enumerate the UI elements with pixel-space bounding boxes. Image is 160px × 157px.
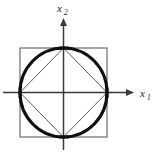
vertex-left	[19, 88, 22, 98]
x1-axis-label: x 1	[139, 87, 151, 102]
x2-axis-label-subscript: 2	[64, 8, 68, 17]
diagram-canvas: x 1 x 2	[0, 0, 160, 157]
x1-axis-label-base: x	[139, 87, 145, 99]
vertex-bottom	[59, 136, 69, 139]
vertex-right	[106, 88, 109, 98]
x1-axis-arrowhead	[126, 89, 134, 96]
x2-axis-label-base: x	[56, 2, 62, 14]
x2-axis	[60, 18, 67, 150]
x1-axis-label-subscript: 1	[147, 93, 151, 102]
x2-axis-label: x 2	[56, 2, 68, 17]
vertex-top	[59, 47, 69, 50]
norm-balls-figure: x 1 x 2	[0, 0, 160, 157]
x2-axis-arrowhead	[60, 18, 67, 26]
